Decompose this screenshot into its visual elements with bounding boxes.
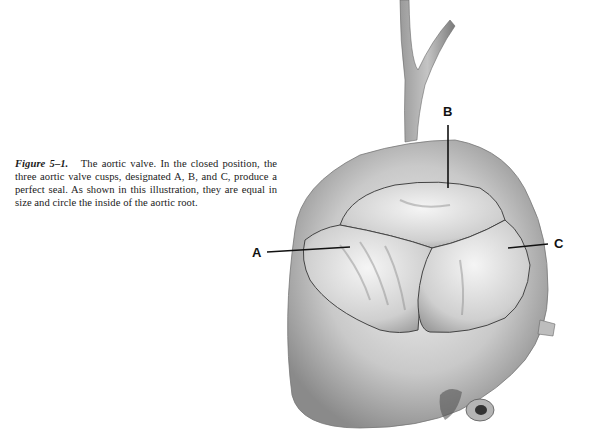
aortic-valve-illustration [0,0,593,439]
label-b: B [443,104,452,119]
coronary-vessel [400,0,455,142]
label-a: A [252,245,261,260]
label-c: C [554,236,563,251]
